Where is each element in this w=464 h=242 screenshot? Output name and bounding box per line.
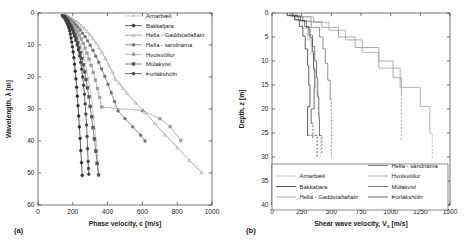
data-marker bbox=[89, 105, 92, 108]
data-marker bbox=[80, 57, 83, 60]
data-marker bbox=[90, 115, 93, 118]
y-tick-label: 5 bbox=[265, 33, 269, 40]
legend-item-hella_gaddstadaflatir[interactable]: Hella - Gaddstaðaflatir bbox=[125, 32, 205, 38]
data-marker bbox=[139, 134, 142, 137]
data-marker bbox=[100, 106, 103, 109]
x-tick-label: 1000 bbox=[205, 208, 220, 215]
data-marker bbox=[72, 56, 75, 59]
data-marker bbox=[89, 44, 92, 47]
data-marker bbox=[82, 84, 85, 87]
y-tick-label: 50 bbox=[27, 169, 35, 176]
data-marker bbox=[132, 34, 135, 37]
data-marker bbox=[93, 138, 96, 141]
data-marker bbox=[80, 161, 83, 164]
y-tick-label: 0 bbox=[265, 9, 269, 16]
data-marker bbox=[74, 77, 77, 80]
data-marker bbox=[88, 58, 91, 61]
data-marker bbox=[87, 160, 90, 163]
data-marker bbox=[132, 15, 135, 18]
panel-a-label: (a) bbox=[14, 226, 24, 235]
data-marker bbox=[86, 52, 89, 55]
data-marker bbox=[84, 113, 87, 116]
data-marker bbox=[70, 41, 73, 44]
legend-label: Bakkafjara bbox=[300, 184, 329, 190]
data-marker bbox=[94, 79, 97, 82]
data-marker bbox=[110, 91, 113, 94]
data-marker bbox=[132, 72, 135, 75]
panel-b-svg: 02505007501000125015000510152025303540Sh… bbox=[232, 0, 464, 242]
y-tick-label: 40 bbox=[27, 137, 35, 144]
legend-item-thorlakshofn[interactable]: Þorlákshöfn bbox=[125, 71, 177, 77]
legend-label: Bakkafjara bbox=[146, 23, 175, 29]
data-marker bbox=[94, 55, 97, 58]
data-marker bbox=[132, 43, 135, 46]
y-tick-label: 25 bbox=[261, 129, 269, 136]
legend-label: Múlakvísl bbox=[392, 184, 417, 190]
profile-hella-gaddsta-aflatir bbox=[296, 13, 402, 140]
legend-item-hvolsvollur[interactable]: Hvolsvöllur bbox=[125, 52, 175, 58]
data-marker bbox=[179, 139, 182, 142]
data-marker bbox=[85, 124, 88, 127]
legend-item-arnarbaeli[interactable]: Arnarbæli bbox=[125, 13, 172, 19]
data-marker bbox=[90, 64, 93, 67]
x-tick-label: 600 bbox=[137, 208, 148, 215]
data-marker bbox=[113, 100, 116, 103]
panel-b-profiles-group bbox=[286, 13, 432, 159]
data-marker bbox=[96, 162, 99, 165]
data-marker bbox=[78, 54, 81, 57]
legend-item-hella_sandnama[interactable]: Hella - sandnáma bbox=[125, 42, 193, 48]
panel-a-series-group bbox=[61, 14, 203, 177]
data-marker bbox=[103, 75, 106, 78]
data-marker bbox=[124, 117, 127, 120]
y-tick-label: 30 bbox=[27, 105, 35, 112]
data-marker bbox=[158, 117, 161, 120]
data-marker bbox=[98, 96, 101, 99]
legend-label: Hvolsvöllur bbox=[392, 173, 421, 179]
y-tick-label: 35 bbox=[261, 177, 269, 184]
data-marker bbox=[80, 38, 83, 41]
legend-label: Þorlákshöfn bbox=[392, 194, 423, 200]
data-marker bbox=[132, 24, 135, 27]
data-marker bbox=[132, 63, 135, 66]
data-marker bbox=[69, 33, 72, 36]
y-tick-label: 15 bbox=[261, 81, 269, 88]
legend-item-mulakvisl[interactable]: Múlakvísl bbox=[125, 61, 171, 67]
panel-b-label: (b) bbox=[246, 226, 256, 235]
data-marker bbox=[97, 173, 100, 176]
data-marker bbox=[77, 115, 80, 118]
legend-label: Arnarbæli bbox=[146, 13, 172, 19]
data-marker bbox=[76, 44, 79, 47]
profile-halfspace-line bbox=[430, 133, 432, 159]
y-tick-label: 10 bbox=[261, 57, 269, 64]
series-line bbox=[62, 16, 82, 176]
data-marker bbox=[86, 135, 89, 138]
y-tick-label: 20 bbox=[261, 105, 269, 112]
profile-line bbox=[293, 13, 330, 99]
data-marker bbox=[83, 70, 86, 73]
profile-line bbox=[287, 13, 310, 135]
data-marker bbox=[81, 32, 84, 35]
data-marker bbox=[76, 95, 79, 98]
data-marker bbox=[94, 150, 97, 153]
data-marker bbox=[72, 31, 75, 34]
profile-halfspace-line bbox=[319, 135, 320, 157]
panel-b-legend-box bbox=[272, 164, 448, 210]
legend-item-bakkafjara[interactable]: Bakkafjara bbox=[125, 23, 175, 29]
data-marker bbox=[86, 147, 89, 150]
data-marker bbox=[87, 173, 90, 176]
data-marker bbox=[77, 104, 80, 107]
profile-bakkafjara bbox=[287, 13, 317, 157]
data-marker bbox=[75, 86, 78, 89]
data-marker bbox=[87, 95, 90, 98]
profile-halfspace-line bbox=[308, 135, 317, 157]
y-tick-label: 60 bbox=[27, 201, 35, 208]
data-marker bbox=[70, 37, 73, 40]
data-marker bbox=[78, 34, 81, 37]
data-marker bbox=[131, 125, 134, 128]
x-tick-label: 200 bbox=[67, 208, 78, 215]
data-marker bbox=[71, 45, 74, 48]
data-marker bbox=[76, 31, 79, 34]
figure-container: 020040060080010000102030405060Phase velo… bbox=[0, 0, 464, 242]
data-marker bbox=[82, 63, 85, 66]
profile-halfspace-line bbox=[330, 99, 331, 157]
